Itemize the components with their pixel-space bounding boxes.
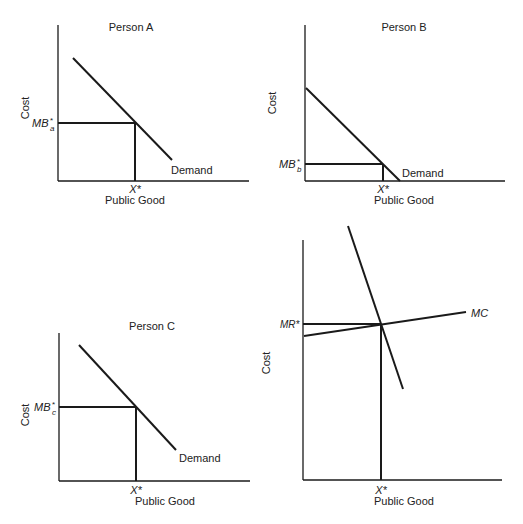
demand-curve xyxy=(73,58,172,160)
mb-marker: MB a * xyxy=(32,116,55,133)
y-axis-label: Cost xyxy=(260,352,272,375)
svg-text:*: * xyxy=(52,400,55,409)
panel-title: Person C xyxy=(129,320,175,332)
y-axis-label: Cost xyxy=(19,404,31,427)
mb-marker: MB c * xyxy=(34,400,56,417)
svg-text:MB: MB xyxy=(32,117,49,129)
demand-curve xyxy=(79,345,176,450)
mr-marker: MR* xyxy=(280,319,301,330)
svg-text:a: a xyxy=(50,124,55,133)
y-axis-label: Cost xyxy=(19,97,31,120)
curve-label: Demand xyxy=(179,452,221,464)
panel-title: Person A xyxy=(109,21,154,33)
svg-text:*: * xyxy=(297,157,300,166)
panel-person-c: Person C Demand Cost Public Good X* MB c… xyxy=(19,320,250,507)
curve-label: Demand xyxy=(402,167,444,179)
y-axis-label: Cost xyxy=(266,92,278,115)
panel-aggregate: MC Cost Public Good X* MR* xyxy=(260,226,502,507)
mb-marker: MB b * xyxy=(279,157,302,174)
x-axis-label: Public Good xyxy=(105,194,165,206)
panel-title: Person B xyxy=(381,21,426,33)
x-star-marker: X* xyxy=(128,183,141,195)
x-axis-label: Public Good xyxy=(374,495,434,507)
svg-text:*: * xyxy=(50,116,53,125)
aggregate-demand-curve xyxy=(348,226,403,389)
svg-text:MB: MB xyxy=(34,401,51,413)
panel-person-b: Person B Demand Cost Public Good X* MB b… xyxy=(266,21,505,206)
public-goods-diagram: Person A Demand Cost Public Good X* MB a… xyxy=(0,0,523,524)
x-star-marker: X* xyxy=(374,484,387,496)
panel-person-a: Person A Demand Cost Public Good X* MB a… xyxy=(19,21,249,206)
x-axis-label: Public Good xyxy=(135,495,195,507)
demand-curve xyxy=(306,88,400,181)
svg-text:MB: MB xyxy=(279,158,296,170)
x-star-marker: X* xyxy=(129,484,142,496)
svg-text:b: b xyxy=(297,165,302,174)
x-star-marker: X* xyxy=(376,183,389,195)
x-axis-label: Public Good xyxy=(374,194,434,206)
svg-text:c: c xyxy=(52,408,56,417)
curve-label: MC xyxy=(471,307,488,319)
curve-label: Demand xyxy=(171,164,213,176)
